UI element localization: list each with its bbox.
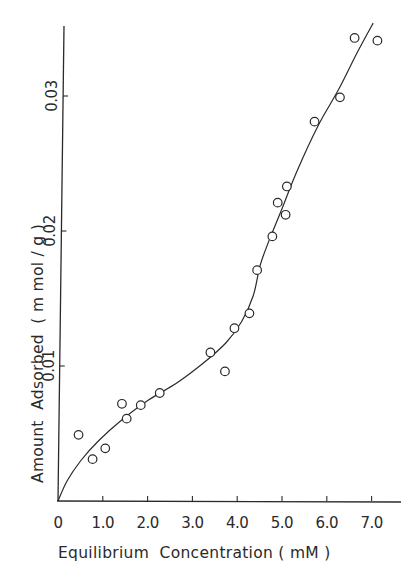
data-point-marker	[206, 348, 215, 357]
data-point-marker	[118, 400, 127, 409]
data-point-marker	[245, 309, 254, 318]
data-point-marker	[268, 232, 277, 241]
data-point-marker	[230, 324, 239, 333]
data-point-marker	[122, 414, 131, 423]
x-tick-label: 1.0	[92, 514, 114, 532]
data-point-marker	[221, 367, 230, 376]
data-point-marker	[283, 182, 292, 191]
data-point-marker	[88, 455, 97, 464]
data-point-marker	[350, 34, 359, 43]
data-point-marker	[74, 431, 83, 440]
fitted-curve	[58, 23, 373, 501]
x-tick-label: 6.0	[316, 514, 338, 532]
data-point-marker	[281, 211, 290, 220]
x-tick-label: 2.0	[136, 514, 158, 532]
data-points	[74, 34, 381, 464]
x-tick-label: 7.0	[360, 514, 382, 532]
data-point-marker	[253, 266, 262, 275]
data-point-marker	[336, 93, 345, 102]
x-tick-label: 3.0	[181, 514, 203, 532]
x-tick-label: 0	[53, 514, 62, 532]
data-point-marker	[136, 401, 145, 410]
data-point-marker	[273, 198, 282, 207]
x-axis-label: Equilibrium Concentration ( mM )	[58, 544, 331, 562]
x-axis	[57, 501, 401, 502]
y-tick-label: 0.03	[43, 80, 61, 111]
data-point-marker	[310, 117, 319, 126]
data-point-marker	[101, 444, 110, 453]
data-point-marker	[373, 36, 382, 45]
y-axis-label: Amount Adsorbed ( m mol / g )	[29, 224, 47, 483]
data-point-marker	[155, 389, 164, 398]
x-tick-label: 4.0	[226, 514, 248, 532]
x-tick-label: 5.0	[271, 514, 293, 532]
adsorption-isotherm-chart: 01.02.03.04.05.06.07.0 0.010.020.03 Equi…	[0, 0, 415, 582]
